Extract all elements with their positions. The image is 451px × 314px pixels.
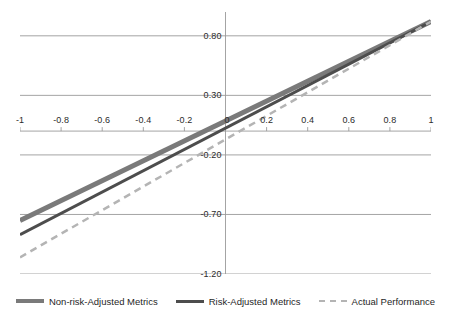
y-tick-label-2: -0.20: [182, 150, 222, 160]
chart-container: 0.800.30-0.20-0.70-1.20 -1-0.8-0.6-0.4-0…: [0, 0, 451, 314]
legend-item-2[interactable]: Actual Performance: [319, 296, 435, 307]
x-tick-label-4: -0.2: [176, 115, 192, 125]
x-tick-label-1: -0.8: [53, 115, 69, 125]
legend-item-1[interactable]: Risk-Adjusted Metrics: [176, 296, 301, 307]
legend-swatch-icon-1: [176, 300, 204, 303]
legend-swatch-icon-0: [16, 299, 44, 303]
legend-label-2: Actual Performance: [352, 296, 435, 307]
legend-label-0: Non-risk-Adjusted Metrics: [49, 296, 158, 307]
x-tick-label-7: 0.4: [301, 115, 314, 125]
x-tick-label-2: -0.6: [94, 115, 110, 125]
y-tick-label-3: -0.70: [182, 209, 222, 219]
x-tick-label-5: 0: [224, 115, 229, 125]
y-tick-label-0: 0.80: [182, 31, 222, 41]
chart-legend: Non-risk-Adjusted MetricsRisk-Adjusted M…: [0, 288, 451, 314]
x-tick-label-9: 0.8: [383, 115, 396, 125]
x-tick-label-10: 1: [428, 115, 433, 125]
legend-item-0[interactable]: Non-risk-Adjusted Metrics: [16, 296, 158, 307]
x-tick-label-0: -1: [16, 115, 24, 125]
x-tick-label-8: 0.6: [342, 115, 355, 125]
y-tick-label-1: 0.30: [182, 90, 222, 100]
y-tick-label-4: -1.20: [182, 269, 222, 279]
plot-area: 0.800.30-0.20-0.70-1.20 -1-0.8-0.6-0.4-0…: [20, 12, 431, 274]
chart-plot-svg: [20, 12, 431, 274]
x-tick-label-6: 0.2: [260, 115, 273, 125]
x-tick-label-3: -0.4: [135, 115, 151, 125]
legend-label-1: Risk-Adjusted Metrics: [209, 296, 301, 307]
legend-swatch-icon-2: [319, 300, 347, 302]
